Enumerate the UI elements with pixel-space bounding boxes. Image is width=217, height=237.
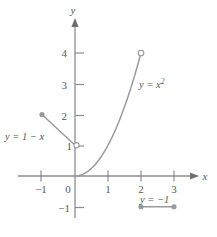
parabola-curve-visible bbox=[75, 53, 141, 176]
y-tick-label-neg1: −1 bbox=[58, 202, 70, 214]
label-quadratic-piece: y = x2 bbox=[138, 77, 165, 90]
y-axis-arrow-icon bbox=[71, 18, 78, 27]
y-tick-label-1: 1 bbox=[67, 140, 73, 152]
x-tick-label-neg1: −1 bbox=[35, 183, 47, 195]
x-tick-label-1: 1 bbox=[105, 183, 111, 195]
y-tick-label-2: 2 bbox=[62, 110, 68, 122]
graph-canvas: y x −1 0 1 2 3 4 3 2 1 −1 y = 1 − x y = … bbox=[0, 0, 217, 237]
label-quadratic-base: y = x bbox=[138, 79, 161, 90]
y-axis-ticks bbox=[75, 53, 84, 208]
y-tick-label-4: 4 bbox=[62, 47, 68, 59]
parabola-open-endpoint bbox=[138, 50, 144, 56]
series-quadratic bbox=[75, 50, 144, 176]
x-tick-label-3: 3 bbox=[171, 183, 177, 195]
x-axis-arrow-icon bbox=[190, 172, 199, 179]
series-linear bbox=[39, 112, 79, 148]
x-axis-label: x bbox=[202, 170, 208, 182]
label-constant-piece: y = −1 bbox=[139, 194, 169, 205]
label-quadratic-exponent: 2 bbox=[161, 77, 165, 86]
linear-open-endpoint bbox=[74, 143, 79, 148]
piecewise-function-graph: y x −1 0 1 2 3 4 3 2 1 −1 y = 1 − x y = … bbox=[0, 0, 217, 237]
x-tick-label-0: 0 bbox=[65, 183, 71, 195]
constant-right-closed-endpoint bbox=[171, 204, 176, 209]
linear-closed-endpoint bbox=[39, 112, 44, 117]
y-tick-label-3: 3 bbox=[62, 79, 68, 91]
label-linear-piece: y = 1 − x bbox=[4, 131, 45, 142]
y-axis-label: y bbox=[70, 4, 76, 16]
